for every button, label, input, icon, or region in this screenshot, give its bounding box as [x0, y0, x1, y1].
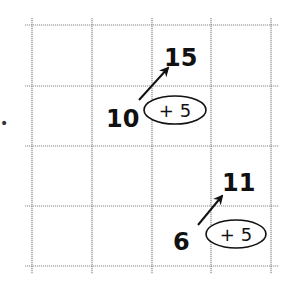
operation-label: + 5 — [220, 224, 252, 245]
addition-grid-diagram: • 10 15 + 5 6 11 + 5 — [0, 0, 289, 286]
arrow-icon — [198, 196, 222, 225]
edge-mark: • — [0, 115, 8, 131]
start-number: 6 — [173, 228, 190, 256]
problem-1: 10 15 + 5 — [106, 44, 206, 133]
arrow-icon — [139, 68, 168, 100]
start-number: 10 — [106, 105, 139, 133]
problem-2: 6 11 + 5 — [173, 169, 266, 256]
result-number: 11 — [222, 169, 255, 197]
result-number: 15 — [164, 44, 197, 72]
operation-label: + 5 — [159, 100, 191, 121]
